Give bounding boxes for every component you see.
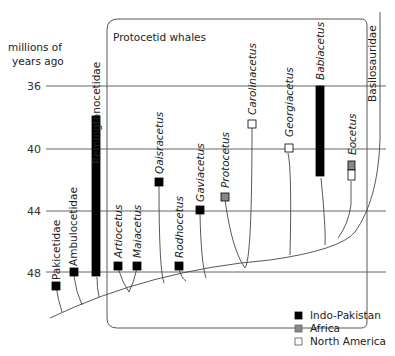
label-protocetus: Protocetus — [219, 131, 231, 188]
label-pakicetidae: Pakicetidae — [50, 220, 62, 280]
legend-north-america: North America — [310, 335, 386, 347]
tick-44: 44 — [27, 205, 41, 218]
axis-label-line1: millions of — [8, 41, 62, 53]
label-rodhocetus: Rodhocetus — [173, 196, 185, 258]
tick-40: 40 — [27, 143, 41, 156]
legend-indo-pakistan: Indo-Pakistan — [310, 309, 381, 321]
box-title: Protocetid whales — [113, 31, 206, 43]
tick-36: 36 — [27, 80, 41, 93]
label-qaisracetus: Qaisracetus — [153, 111, 165, 174]
label-ambulocetidae: Ambulocetidae — [67, 187, 79, 266]
axis-label-line2: years ago — [12, 55, 64, 67]
tick-48: 48 — [27, 267, 41, 280]
label-babiacetus: Babiacetus — [314, 21, 326, 80]
label-maiacetus: Maiacetus — [131, 204, 143, 258]
label-georgiacetus: Georgiacetus — [283, 67, 295, 137]
label-eocetus: Eocetus — [346, 113, 358, 155]
label-carolinacetus: Carolinacetus — [246, 43, 258, 115]
phylogeny-diagram: millions of years ago 36 40 44 48 Protoc… — [0, 0, 395, 356]
legend-africa: Africa — [310, 322, 340, 334]
label-basilosauridae: Basilosauridae — [366, 25, 378, 102]
label-artiocetus: Artiocetus — [112, 204, 124, 259]
label-gaviacetus: Gaviacetus — [194, 143, 206, 202]
label-remingtonocetidae: Remingtonocetidae — [90, 62, 102, 164]
